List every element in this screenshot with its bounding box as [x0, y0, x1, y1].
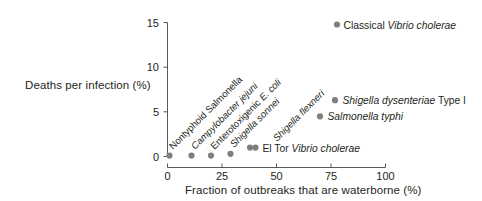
y-tick-label-5: 5	[153, 106, 159, 118]
x-tick-label-100: 100	[376, 170, 394, 182]
y-tick-label-0: 0	[153, 151, 159, 163]
label-el-tor-vibrio-cholerae: El Tor Vibrio cholerae	[263, 143, 361, 154]
data-point-campylobacter-jejuni[interactable]	[188, 153, 194, 159]
scatter-chart-figure: Deaths per infection (%) Fraction of out…	[0, 0, 482, 201]
data-point-shigella-flexneri[interactable]	[247, 145, 253, 151]
data-point-classical-vibrio-cholerae[interactable]	[334, 21, 340, 27]
data-point-el-tor-vibrio-cholerae[interactable]	[252, 145, 258, 151]
x-tick-label-25: 25	[216, 170, 228, 182]
data-point-shigella-dysenteriae-type-i[interactable]	[332, 97, 338, 103]
data-point-shigella-sonnei[interactable]	[227, 151, 233, 157]
y-tick-label-15: 15	[147, 17, 159, 29]
plot-area: 15 10 5 0 0 25 50 75 100 Nontyphoid Salm…	[0, 0, 482, 201]
label-classical-vibrio-cholerae: Classical Vibrio cholerae	[344, 20, 457, 31]
data-point-salmonella-typhi[interactable]	[317, 113, 323, 119]
x-tick-label-0: 0	[164, 170, 170, 182]
label-shigella-dysenteriae-type-i: Shigella dysenteriae Type I	[343, 95, 466, 106]
data-point-enterotoxigenic-ecoli[interactable]	[208, 153, 214, 159]
y-tick-label-10: 10	[147, 61, 159, 73]
x-tick-label-50: 50	[270, 170, 282, 182]
data-point-nontyphoid-salmonella[interactable]	[166, 153, 172, 159]
label-salmonella-typhi: Salmonella typhi	[328, 111, 404, 122]
x-tick-label-75: 75	[325, 170, 337, 182]
